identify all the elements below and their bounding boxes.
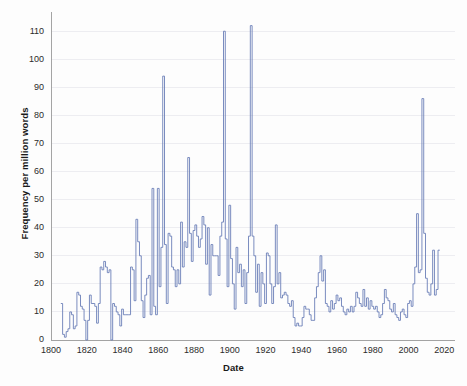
y-tick-label: 30 xyxy=(34,250,44,260)
y-tick-label: 80 xyxy=(34,110,44,120)
y-tick-label: 110 xyxy=(30,26,44,36)
y-tick-label: 100 xyxy=(29,54,44,64)
y-tick-label: 90 xyxy=(34,82,44,92)
y-tick-label: 20 xyxy=(34,278,44,288)
x-tick-label: 1860 xyxy=(148,345,168,355)
x-tick-label: 1820 xyxy=(77,345,97,355)
x-tick-label: 1900 xyxy=(220,345,240,355)
x-tick-label: 2020 xyxy=(434,345,454,355)
y-tick-label: 10 xyxy=(34,306,44,316)
x-tick-label: 1840 xyxy=(112,345,132,355)
x-tick-label: 1920 xyxy=(255,345,275,355)
x-axis-ticks: 1800182018401860188019001920194019601980… xyxy=(41,345,454,355)
data-series-line xyxy=(61,26,440,340)
y-tick-label: 40 xyxy=(34,222,44,232)
gridlines xyxy=(51,31,455,340)
y-axis-ticks: 0102030405060708090100110 xyxy=(29,26,44,345)
x-tick-label: 2000 xyxy=(399,345,419,355)
y-axis-title: Frequency per million words xyxy=(19,64,30,284)
x-tick-label: 1940 xyxy=(291,345,311,355)
x-tick-label: 1980 xyxy=(363,345,383,355)
x-tick-label: 1800 xyxy=(41,345,61,355)
y-tick-label: 70 xyxy=(34,138,44,148)
y-tick-label: 60 xyxy=(34,166,44,176)
y-tick-label: 50 xyxy=(34,194,44,204)
x-axis-title: Date xyxy=(0,362,467,373)
x-tick-label: 1960 xyxy=(327,345,347,355)
frequency-line-chart: Frequency per million words Date 0102030… xyxy=(0,0,467,386)
y-tick-label: 0 xyxy=(39,334,44,344)
x-tick-label: 1880 xyxy=(184,345,204,355)
plot-area: 0102030405060708090100110 18001820184018… xyxy=(0,0,467,386)
